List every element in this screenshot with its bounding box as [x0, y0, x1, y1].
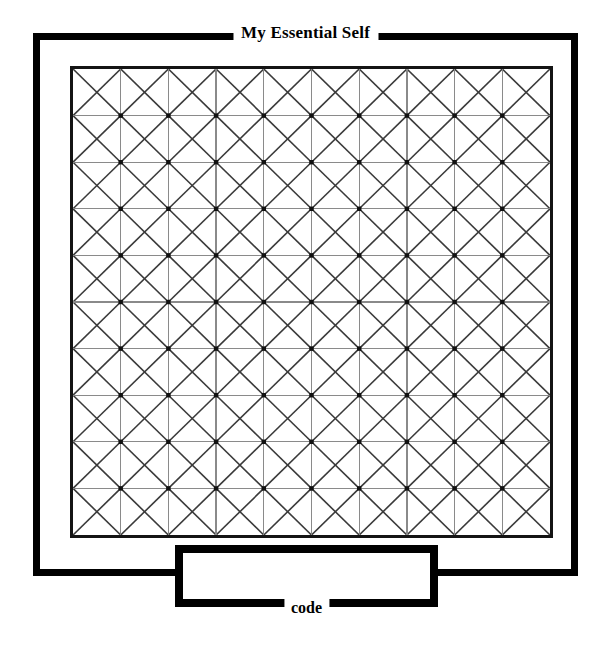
lattice-grid-canvas — [73, 69, 550, 535]
panel-title: My Essential Self — [233, 24, 378, 42]
code-panel[interactable]: code — [175, 545, 438, 607]
canvas: My Essential Self code — [0, 0, 613, 649]
panel-bottom-border-right — [438, 569, 578, 576]
panel-bottom-border-left — [33, 569, 175, 576]
code-panel-title: code — [284, 599, 329, 616]
lattice-grid[interactable] — [70, 66, 553, 538]
essential-self-panel: My Essential Self — [33, 33, 578, 576]
